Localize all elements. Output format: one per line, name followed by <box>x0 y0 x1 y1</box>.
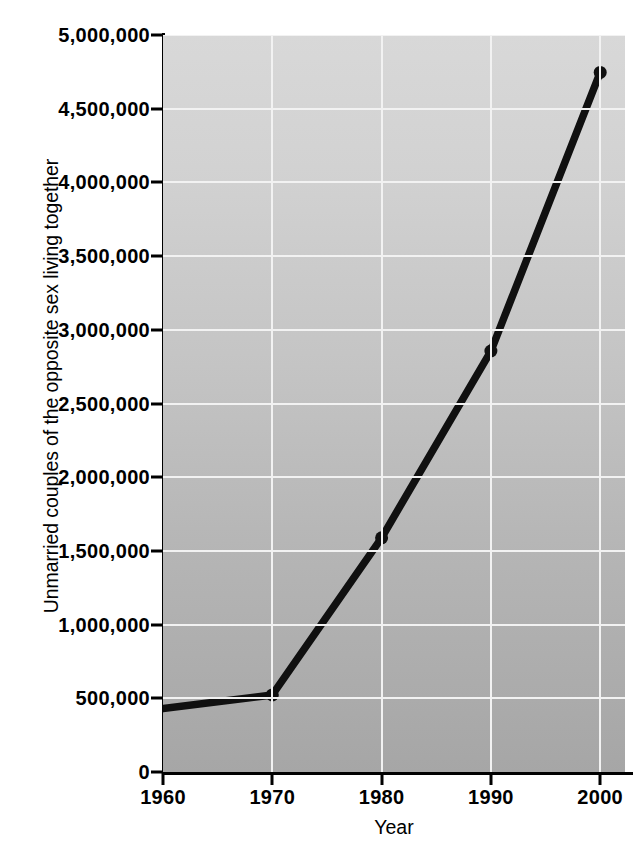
y-tick-label: 1,000,000 <box>0 613 150 636</box>
plot-area <box>163 35 625 772</box>
y-tick-label: 3,000,000 <box>0 318 150 341</box>
gridline-vertical <box>490 35 492 772</box>
gridline-vertical <box>381 35 383 772</box>
gridline-horizontal <box>163 108 625 110</box>
gridline-vertical <box>599 35 601 772</box>
x-tick-label: 1990 <box>468 786 514 809</box>
y-tick-label: 3,500,000 <box>0 245 150 268</box>
gridline-horizontal <box>163 476 625 478</box>
x-tick-label: 1980 <box>359 786 405 809</box>
y-tick-label: 4,500,000 <box>0 97 150 120</box>
gridline-horizontal <box>163 329 625 331</box>
x-tick-mark <box>599 772 602 785</box>
y-tick-label: 2,000,000 <box>0 466 150 489</box>
gridline-horizontal <box>163 35 625 36</box>
y-axis-tick-labels: 0500,0001,000,0001,500,0002,000,0002,500… <box>0 0 150 850</box>
gridline-horizontal <box>163 624 625 626</box>
y-tick-mark <box>151 476 163 479</box>
x-tick-label: 1960 <box>140 786 186 809</box>
y-tick-mark <box>151 181 163 184</box>
x-axis-tick-labels: 19601970198019902000 <box>0 786 641 816</box>
x-tick-mark <box>489 772 492 785</box>
gridline-horizontal <box>163 403 625 405</box>
x-tick-mark <box>162 772 165 785</box>
y-tick-mark <box>151 328 163 331</box>
y-tick-mark <box>151 255 163 258</box>
x-axis-line <box>162 772 633 775</box>
y-tick-mark <box>151 402 163 405</box>
gridline-horizontal <box>163 697 625 699</box>
y-tick-mark <box>151 34 163 37</box>
y-tick-label: 0 <box>0 761 150 784</box>
y-tick-mark <box>151 623 163 626</box>
y-tick-label: 4,000,000 <box>0 171 150 194</box>
gridline-vertical <box>271 35 273 772</box>
gridline-horizontal <box>163 181 625 183</box>
y-tick-mark <box>151 549 163 552</box>
x-tick-label: 1970 <box>249 786 295 809</box>
y-tick-label: 500,000 <box>0 687 150 710</box>
x-tick-mark <box>380 772 383 785</box>
x-tick-mark <box>271 772 274 785</box>
gridline-horizontal <box>163 255 625 257</box>
y-tick-mark <box>151 107 163 110</box>
gridline-horizontal <box>163 550 625 552</box>
y-tick-mark <box>151 697 163 700</box>
x-tick-label: 2000 <box>577 786 623 809</box>
y-tick-label: 5,000,000 <box>0 24 150 47</box>
y-tick-label: 2,500,000 <box>0 392 150 415</box>
x-axis-title: Year <box>163 816 625 839</box>
y-tick-label: 1,500,000 <box>0 539 150 562</box>
line-chart-figure: Unmarried couples of the opposite sex li… <box>0 0 641 850</box>
